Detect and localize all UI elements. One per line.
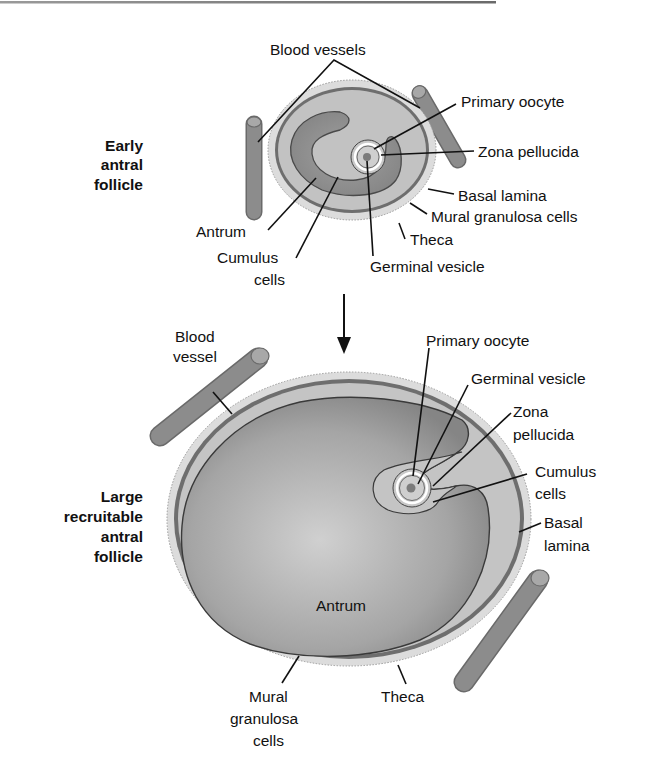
label-blood: Blood [175, 328, 215, 345]
down-arrow-icon [337, 294, 351, 354]
label-basal-lamina: Basal lamina [458, 187, 547, 204]
label-theca-large: Theca [381, 688, 424, 705]
label-blood-vessels: Blood vessels [270, 41, 366, 58]
label-zona: Zona [513, 403, 549, 420]
title-early-1: Early [105, 137, 143, 154]
label-cumulus: Cumulus [217, 249, 278, 266]
label-cells-large: cells [535, 485, 566, 502]
title-large-1: Large [101, 488, 144, 505]
label-zona-pellucida: Zona pellucida [478, 143, 579, 160]
top-rule [0, 1, 496, 4]
label-basal: Basal [544, 514, 583, 531]
title-early-3: follicle [94, 176, 143, 193]
label-theca: Theca [410, 231, 453, 248]
label-pellucida: pellucida [513, 426, 575, 443]
title-early-2: antral [101, 156, 143, 173]
label-germinal-vesicle-large: Germinal vesicle [471, 370, 586, 387]
label-cumulus-large: Cumulus [535, 463, 596, 480]
title-large-3: antral [101, 528, 143, 545]
label-primary-oocyte-large: Primary oocyte [426, 332, 529, 349]
label-lamina: lamina [544, 537, 590, 554]
label-antrum-large: Antrum [316, 597, 366, 614]
early-antral-follicle: Blood vessels Primary oocyte Zona pelluc… [94, 41, 579, 288]
label-antrum: Antrum [196, 223, 246, 240]
blood-vessel-vertical [247, 117, 261, 212]
label-mural-granulosa: Mural granulosa cells [431, 208, 578, 225]
title-large-4: follicle [94, 548, 143, 565]
follicle-diagram: Blood vessels Primary oocyte Zona pelluc… [0, 0, 650, 766]
label-granulosa: granulosa [230, 710, 298, 727]
large-antral-follicle: Blood vessel Primary oocyte Germinal ves… [64, 328, 597, 749]
label-mural-cells: cells [253, 732, 284, 749]
label-primary-oocyte: Primary oocyte [461, 93, 564, 110]
label-mural: Mural [249, 688, 288, 705]
germinal-vesicle-small [363, 153, 371, 161]
label-germinal-vesicle: Germinal vesicle [370, 258, 485, 275]
germinal-vesicle-large [407, 484, 416, 493]
title-large-2: recruitable [64, 508, 144, 525]
label-vessel: vessel [173, 348, 217, 365]
label-cells: cells [254, 271, 285, 288]
